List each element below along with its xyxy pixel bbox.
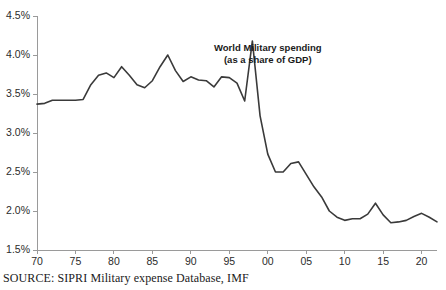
- data-series: [37, 41, 437, 223]
- y-tick-label: 4.0%: [6, 48, 30, 60]
- y-tick-label: 2.5%: [6, 165, 30, 177]
- y-tick-label: 3.0%: [6, 126, 30, 138]
- chart-annotation: World Military spending(as a share of GD…: [214, 42, 322, 65]
- series-line: [37, 41, 437, 223]
- chart-figure: 1.5%2.0%2.5%3.0%3.5%4.0%4.5% 70758085909…: [0, 0, 446, 290]
- y-tick-label: 2.0%: [6, 204, 30, 216]
- y-tick-label: 1.5%: [6, 243, 30, 255]
- x-tick-label: 00: [262, 255, 274, 267]
- y-axis: 1.5%2.0%2.5%3.0%3.5%4.0%4.5%: [6, 9, 37, 255]
- x-tick-label: 90: [185, 255, 197, 267]
- x-tick-label: 20: [416, 255, 428, 267]
- x-tick-label: 15: [377, 255, 389, 267]
- x-tick-label: 75: [70, 255, 82, 267]
- x-tick-label: 10: [339, 255, 351, 267]
- y-tick-label: 4.5%: [6, 9, 30, 21]
- x-tick-label: 85: [147, 255, 159, 267]
- annotation-line-1: World Military spending: [214, 42, 322, 53]
- x-tick-label: 95: [223, 255, 235, 267]
- x-tick-label: 70: [31, 255, 43, 267]
- x-tick-label: 05: [300, 255, 312, 267]
- x-axis: 7075808590950005101520: [31, 250, 437, 267]
- y-tick-label: 3.5%: [6, 87, 30, 99]
- x-tick-label: 80: [108, 255, 120, 267]
- annotation-line-2: (as a share of GDP): [224, 54, 312, 65]
- line-chart: 1.5%2.0%2.5%3.0%3.5%4.0%4.5% 70758085909…: [0, 0, 446, 290]
- source-note: SOURCE: SIPRI Military expense Database,…: [3, 271, 249, 286]
